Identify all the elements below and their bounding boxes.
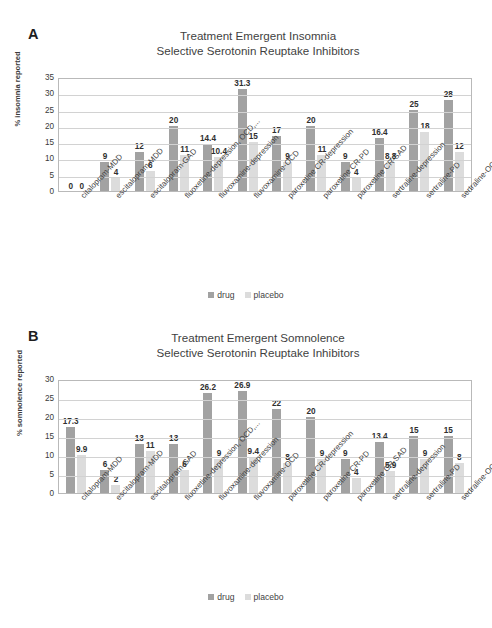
gridline [59, 128, 471, 129]
y-tick-label: 30 [30, 90, 54, 98]
x-tick-label: sertraline-OCD [459, 194, 466, 200]
panel-a-insomnia-chart: A Treatment Emergent Insomnia Selective … [0, 18, 492, 318]
y-tick-label: 35 [30, 74, 54, 82]
x-tick-label: citalopram-MDD [79, 496, 86, 502]
y-tick-label: 15 [30, 433, 54, 441]
panel-b-plot-wrap: % somnolence reported 051015202530 17.39… [0, 380, 492, 502]
x-tick-label: sertraline-PD [424, 194, 431, 200]
y-tick-label: 20 [30, 414, 54, 422]
panel-a-y-axis-ticks: 05101520253035 [30, 78, 54, 200]
legend-swatch-drug-icon [208, 594, 214, 600]
bar-value-label: 0 [68, 182, 73, 191]
y-tick-label: 10 [30, 452, 54, 460]
x-tick-label: fluvoxamine-depression [217, 194, 224, 200]
bar-value-label: 13.4 [372, 432, 388, 441]
panel-b-legend: drug placebo [0, 592, 492, 602]
x-tick-label: sertraline-PD [424, 496, 431, 502]
panel-a-x-axis-labels: citalopram-MDDescitalopram-MDDescitalopr… [58, 194, 472, 286]
x-tick-label: sertraline-depression [390, 496, 397, 502]
y-tick-label: 25 [30, 395, 54, 403]
y-tick-label: 5 [30, 172, 54, 180]
x-tick-label: escitalopram-GAD [148, 194, 155, 200]
x-tick-label: sertraline-depression [390, 194, 397, 200]
x-tick-label: paroxetine CR-SAD [355, 496, 362, 502]
panel-a-legend-placebo: placebo [245, 290, 284, 300]
panel-a-plot-wrap: % insomnia reported 05101520253035 00941… [0, 78, 492, 200]
panel-b-title: Treatment Emergent Somnolence Selective … [58, 330, 458, 360]
bar-value-label: 16.4 [372, 128, 388, 137]
panel-a-title: Treatment Emergent Insomnia Selective Se… [58, 28, 458, 58]
bar-value-label: 26.9 [234, 381, 250, 390]
panel-b-somnolence-chart: B Treatment Emergent Somnolence Selectiv… [0, 320, 492, 620]
gridline [59, 419, 471, 420]
bar-value-label: 9 [103, 152, 108, 161]
panel-a-y-axis-label: % insomnia reported [13, 28, 27, 150]
y-tick-label: 30 [30, 376, 54, 384]
legend-swatch-drug-icon [208, 292, 214, 298]
bar-value-label: 31.3 [234, 79, 250, 88]
panel-a-title-line2: Selective Serotonin Reuptake Inhibitors [58, 43, 458, 58]
page-bleed-bottom [0, 620, 492, 628]
x-tick-label: escitalopram-MDD [114, 194, 121, 200]
panel-b-y-axis-label: % somnolence reported [15, 332, 29, 454]
panel-a-title-line1: Treatment Emergent Insomnia [58, 28, 458, 43]
panel-b-title-line2: Selective Serotonin Reuptake Inhibitors [58, 345, 458, 360]
bar-value-label: 14.4 [200, 134, 216, 143]
panel-b-x-axis-labels: citalopram-MDDescitalopram-MDDescitalopr… [58, 496, 472, 588]
panel-a-legend: drug placebo [0, 290, 492, 300]
panel-b-title-line1: Treatment Emergent Somnolence [58, 330, 458, 345]
panel-a-legend-drug-label: drug [217, 290, 234, 300]
bar-value-label: 20 [306, 407, 315, 416]
bar-value-label: 25 [409, 100, 418, 109]
bar-value-label: 15 [409, 426, 418, 435]
panel-b-legend-placebo-label: placebo [254, 592, 284, 602]
x-tick-label: fluvoxamine-depression [217, 496, 224, 502]
x-tick-label: fluoxetine-depression, OCD,... [183, 194, 190, 200]
x-tick-label: paroxetine CR-PD [321, 496, 328, 502]
y-tick-label: 20 [30, 123, 54, 131]
panel-b-legend-drug-label: drug [217, 592, 234, 602]
x-tick-label: fluoxetine-depression, OCD,... [183, 496, 190, 502]
y-tick-label: 5 [30, 471, 54, 479]
gridline [59, 400, 471, 401]
panel-b-legend-placebo: placebo [245, 592, 284, 602]
panel-a-letter: A [28, 26, 38, 42]
x-tick-label: paroxetine CR-depression [286, 496, 293, 502]
x-tick-label: citalopram-MDD [79, 194, 86, 200]
y-tick-label: 10 [30, 155, 54, 163]
bar-value-label: 11 [146, 441, 155, 450]
gridline [59, 112, 471, 113]
y-tick-label: 0 [30, 188, 54, 196]
panel-b-legend-drug: drug [208, 592, 234, 602]
bar-value-label: 20 [169, 116, 178, 125]
bar-value-label: 9.9 [76, 445, 87, 454]
bar-value-label: 9 [343, 152, 348, 161]
gridline [59, 438, 471, 439]
gridline [59, 95, 471, 96]
panel-a-legend-drug: drug [208, 290, 234, 300]
bar-value-label: 15 [444, 426, 453, 435]
x-tick-label: escitalopram-GAD [148, 496, 155, 502]
y-tick-label: 25 [30, 107, 54, 115]
x-tick-label: paroxetine CR-SAD [355, 194, 362, 200]
x-tick-label: fluvoxamine-OCD [252, 496, 259, 502]
bar-value-label: 20 [306, 116, 315, 125]
panel-b-y-axis-ticks: 051015202530 [30, 380, 54, 502]
x-tick-label: fluvoxamine-OCD [252, 194, 259, 200]
x-tick-label: sertraline-OCD [459, 496, 466, 502]
panel-a-legend-placebo-label: placebo [254, 290, 284, 300]
legend-swatch-placebo-icon [245, 594, 251, 600]
bar-placebo: 9.9 [77, 455, 86, 493]
panel-b-letter: B [28, 328, 38, 344]
y-tick-label: 15 [30, 139, 54, 147]
legend-swatch-placebo-icon [245, 292, 251, 298]
y-tick-label: 0 [30, 490, 54, 498]
x-tick-label: escitalopram-MDD [114, 496, 121, 502]
x-tick-label: paroxetine CR-PD [321, 194, 328, 200]
bar-value-label: 26.2 [200, 383, 216, 392]
bar-value-label: 4 [114, 168, 119, 177]
x-tick-label: paroxetine CR-depression [286, 194, 293, 200]
